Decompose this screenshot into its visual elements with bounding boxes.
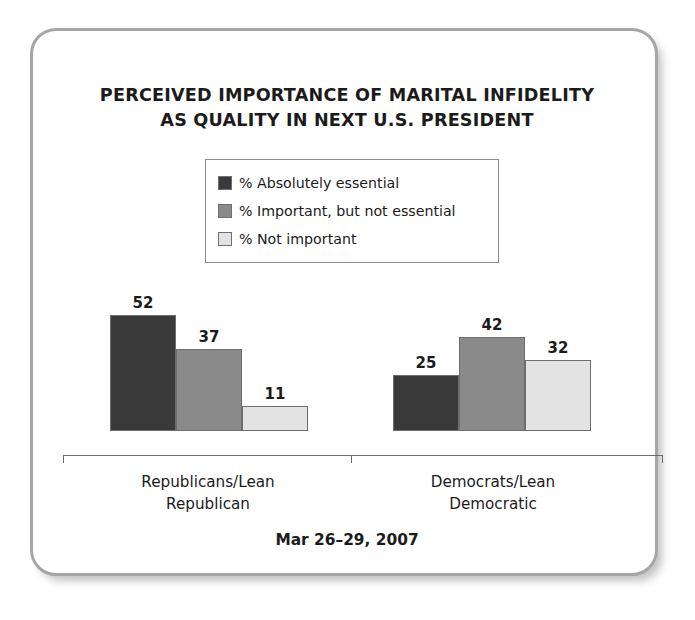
bar-slot-dem-important-not-essential: 42 <box>459 181 525 431</box>
bar-rep-absolutely-essential <box>110 315 176 431</box>
category-label-republican-line-2: Republican <box>78 493 338 515</box>
category-label-republican-line-1: Republicans/Lean <box>78 471 338 493</box>
bar-slot-rep-not-important: 11 <box>242 181 308 431</box>
chart-canvas: PERCEIVED IMPORTANCE OF MARITAL INFIDELI… <box>0 0 695 620</box>
category-label-democratic-line-1: Democrats/Lean <box>363 471 623 493</box>
axis-tick-group-divider <box>351 455 352 463</box>
bar-slot-dem-not-important: 32 <box>525 181 591 431</box>
axis-tick-right <box>662 455 663 463</box>
bar-slot-rep-important-not-essential: 37 <box>176 181 242 431</box>
bar-group-democratic: 25 42 32 <box>393 181 591 431</box>
bar-value-dem-absolutely-essential: 25 <box>416 356 437 371</box>
bar-rep-not-important <box>242 406 308 431</box>
chart-footnote-date: Mar 26–29, 2007 <box>33 531 661 549</box>
x-axis-line <box>63 455 663 456</box>
bar-slot-dem-absolutely-essential: 25 <box>393 181 459 431</box>
chart-title-line-2: AS QUALITY IN NEXT U.S. PRESIDENT <box>33 108 661 133</box>
bar-value-rep-not-important: 11 <box>265 387 286 402</box>
chart-title: PERCEIVED IMPORTANCE OF MARITAL INFIDELI… <box>33 83 661 133</box>
bar-value-dem-not-important: 32 <box>548 341 569 356</box>
bar-rep-important-not-essential <box>176 349 242 431</box>
category-label-democratic-line-2: Democratic <box>363 493 623 515</box>
chart-title-line-1: PERCEIVED IMPORTANCE OF MARITAL INFIDELI… <box>33 83 661 108</box>
bar-dem-not-important <box>525 360 591 431</box>
bar-group-republican: 52 37 11 <box>110 181 308 431</box>
bar-slot-rep-absolutely-essential: 52 <box>110 181 176 431</box>
category-label-democratic: Democrats/Lean Democratic <box>363 471 623 515</box>
bar-value-rep-absolutely-essential: 52 <box>133 296 154 311</box>
bar-dem-absolutely-essential <box>393 375 459 431</box>
chart-card: PERCEIVED IMPORTANCE OF MARITAL INFIDELI… <box>30 28 658 576</box>
bar-dem-important-not-essential <box>459 337 525 431</box>
axis-tick-left <box>63 455 64 463</box>
plot-area: 52 37 11 25 42 <box>63 181 633 431</box>
bar-value-rep-important-not-essential: 37 <box>199 330 220 345</box>
bar-value-dem-important-not-essential: 42 <box>482 318 503 333</box>
category-label-republican: Republicans/Lean Republican <box>78 471 338 515</box>
